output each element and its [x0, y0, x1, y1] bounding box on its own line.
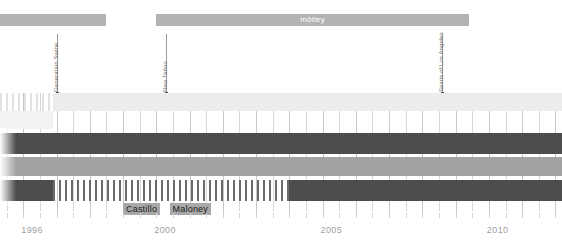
axis-tick	[389, 213, 390, 218]
timeline-segment[interactable]	[0, 180, 53, 201]
timeline-segment[interactable]	[0, 111, 53, 129]
axis-tick	[289, 213, 290, 218]
timeline-segment[interactable]	[53, 180, 289, 201]
timeline-segment[interactable]	[0, 133, 562, 154]
event-label: Saints of Los Angeles	[438, 32, 444, 92]
timeline-segment[interactable]	[0, 93, 53, 111]
stray-mark: ʼ	[458, 231, 460, 238]
event-label: Generation Swine	[53, 43, 59, 92]
axis-tick	[372, 213, 373, 218]
axis-tick	[273, 213, 274, 218]
axis-tick	[223, 213, 224, 218]
axis-tick-label: 2000	[154, 225, 176, 235]
axis-tick	[472, 213, 473, 218]
axis-tick	[90, 213, 91, 218]
axis-tick	[506, 213, 507, 218]
axis-tick	[190, 213, 191, 218]
axis-tick	[23, 213, 24, 218]
timeline-segment[interactable]	[289, 180, 562, 201]
axis-tick	[522, 213, 523, 218]
axis-tick	[539, 213, 540, 218]
axis-tick	[422, 213, 423, 218]
axis-tick	[156, 213, 157, 218]
axis-tick	[323, 213, 324, 218]
axis-tick	[57, 213, 58, 218]
axis-tick	[123, 213, 124, 218]
name-label[interactable]: Castillo	[123, 203, 160, 215]
axis-tick	[406, 213, 407, 218]
axis-tick	[306, 213, 307, 218]
axis-tick	[206, 213, 207, 218]
axis-tick	[173, 213, 174, 218]
top-category-bar[interactable]: mötley	[156, 14, 469, 26]
axis-tick	[456, 213, 457, 218]
axis-tick	[356, 213, 357, 218]
timeline-segment[interactable]	[53, 93, 562, 111]
axis-tick	[140, 213, 141, 218]
timeline-segment[interactable]	[0, 157, 562, 176]
axis-tick	[40, 213, 41, 218]
axis-tick	[7, 213, 8, 218]
axis-tick	[73, 213, 74, 218]
axis-tick	[439, 213, 440, 218]
top-category-bar[interactable]	[0, 14, 106, 26]
axis-tick	[239, 213, 240, 218]
axis-tick-label: 2010	[487, 225, 509, 235]
axis-tick	[106, 213, 107, 218]
event-label: New Tattoo	[162, 61, 168, 92]
axis-tick-label: 1996	[21, 225, 43, 235]
axis-tick	[256, 213, 257, 218]
timeline-chart: mötley Generation SwineNew TattooSaints …	[0, 0, 562, 249]
axis-tick	[555, 213, 556, 218]
axis-tick-label: 2005	[321, 225, 343, 235]
axis-tick	[489, 213, 490, 218]
axis-tick	[339, 213, 340, 218]
